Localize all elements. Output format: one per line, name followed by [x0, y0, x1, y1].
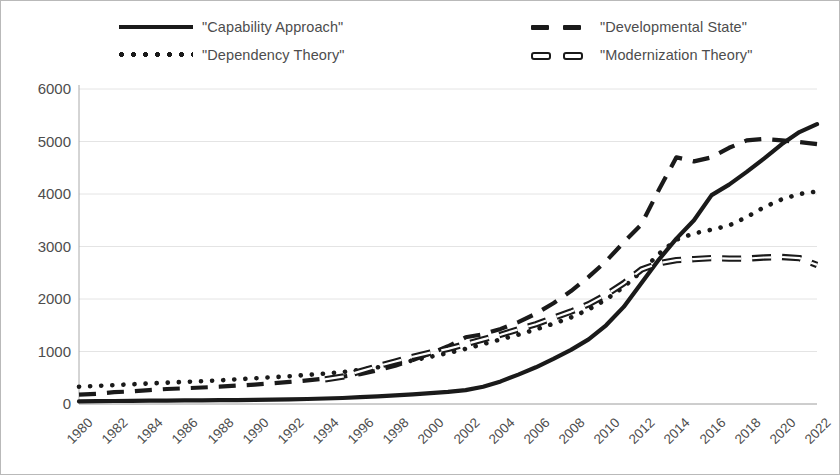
x-axis-tick-label: 2008: [549, 415, 588, 454]
x-axis-tick-label: 1980: [57, 415, 96, 454]
x-axis-tick-label: 2016: [689, 415, 728, 454]
chart-container: "Capability Approach" "Developmental Sta…: [0, 0, 840, 475]
x-axis-tick-label: 1986: [162, 415, 201, 454]
x-axis-tick-label: 1996: [338, 415, 377, 454]
x-axis-tick-label: 1988: [197, 415, 236, 454]
x-axis-tick-label: 2012: [619, 415, 658, 454]
x-axis-tick-label: 2020: [760, 415, 799, 454]
x-axis-tick-label: 1998: [373, 415, 412, 454]
x-axis-tick-label: 1990: [232, 415, 271, 454]
x-axis-tick-label: 2014: [654, 415, 693, 454]
x-axis-tick-label: 1984: [127, 415, 166, 454]
x-axis-tick-label: 2006: [514, 415, 553, 454]
x-axis-tick-label: 1982: [92, 415, 131, 454]
x-axis-tick-label: 1992: [268, 415, 307, 454]
x-axis-tick-label: 2018: [724, 415, 763, 454]
x-axis-tick-label: 1994: [303, 415, 342, 454]
plot-area: 6000500040003000200010000 19801982198419…: [1, 1, 840, 475]
x-axis-tick-labels: 1980198219841986198819901992199419961998…: [1, 1, 840, 475]
x-axis-tick-label: 2022: [795, 415, 834, 454]
x-axis-tick-label: 2004: [478, 415, 517, 454]
x-axis-tick-label: 2002: [443, 415, 482, 454]
x-axis-tick-label: 2000: [408, 415, 447, 454]
x-axis-tick-label: 2010: [584, 415, 623, 454]
